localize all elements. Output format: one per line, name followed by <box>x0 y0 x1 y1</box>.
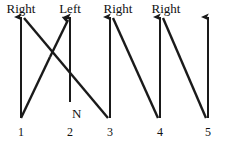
diagonal-to-2 <box>50 20 68 57</box>
top-label-1: Right <box>7 2 36 15</box>
position-label-3: 3 <box>107 126 113 138</box>
top-label-3: Right <box>104 2 133 15</box>
position-label-4: 4 <box>157 126 163 138</box>
diagonal-4-to-5 <box>163 18 206 118</box>
position-label-5: 5 <box>205 126 211 138</box>
position-label-2: 2 <box>67 126 73 138</box>
position-label-1: 1 <box>18 126 24 138</box>
vertical-arrows-group <box>21 17 208 118</box>
top-label-4: Right <box>152 2 181 15</box>
diagonal-1-up <box>21 57 50 118</box>
diagram-vector-layer <box>0 0 227 141</box>
diagonal-3-to-4 <box>113 18 158 118</box>
diagram-canvas: RightLeftRightRight 12345 N <box>0 0 227 141</box>
diagonal-1-to-3 <box>24 18 108 118</box>
diagonal-lines-group <box>21 18 206 118</box>
top-label-2: Left <box>59 2 81 15</box>
side-label-1: N <box>72 107 81 120</box>
